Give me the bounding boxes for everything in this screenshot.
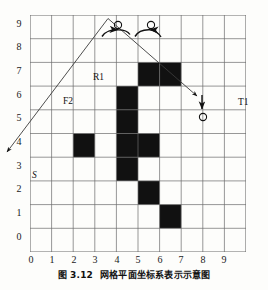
filled-cell (116, 86, 138, 110)
y-tick-5: 5 (12, 112, 26, 123)
y-tick-1: 1 (12, 207, 26, 218)
y-tick-0: 0 (12, 231, 26, 242)
filled-cell (138, 181, 160, 205)
x-tick-2: 2 (67, 254, 81, 265)
x-tick-9: 9 (217, 254, 231, 265)
annotation-label-r1: R1 (93, 72, 104, 82)
filled-cell (116, 157, 138, 181)
y-tick-2: 2 (12, 183, 26, 194)
x-tick-6: 6 (153, 254, 167, 265)
x-tick-1: 1 (45, 254, 59, 265)
grid-plot-area (30, 15, 246, 252)
y-tick-8: 8 (12, 41, 26, 52)
x-tick-5: 5 (131, 254, 145, 265)
annotation-label-s: S (32, 170, 37, 180)
x-tick-7: 7 (174, 254, 188, 265)
y-tick-7: 7 (12, 65, 26, 76)
y-tick-3: 3 (12, 160, 26, 171)
y-tick-9: 9 (12, 18, 26, 29)
caption-text: 网格平面坐标系表示示意图 (100, 270, 210, 280)
filled-cell (116, 110, 138, 134)
filled-cell (73, 134, 95, 158)
caption-number: 图 3.12 (58, 270, 94, 280)
filled-cell (116, 134, 138, 158)
filled-cell (160, 62, 182, 86)
filled-cell (138, 62, 160, 86)
figure-caption: 图 3.12网格平面坐标系表示示意图 (0, 268, 268, 281)
y-tick-4: 4 (12, 136, 26, 147)
y-tick-6: 6 (12, 89, 26, 100)
filled-cell (160, 205, 182, 229)
figure-container: 9 8 7 6 5 4 3 2 1 0 0 1 2 3 4 5 6 7 8 9 (0, 0, 268, 290)
x-tick-0: 0 (24, 254, 38, 265)
filled-cell (138, 134, 160, 158)
x-tick-4: 4 (110, 254, 124, 265)
x-tick-3: 3 (88, 254, 102, 265)
x-tick-8: 8 (196, 254, 210, 265)
grid-canvas (30, 15, 246, 252)
annotation-label-t1: T1 (238, 97, 249, 107)
annotation-label-f2: F2 (63, 96, 73, 106)
